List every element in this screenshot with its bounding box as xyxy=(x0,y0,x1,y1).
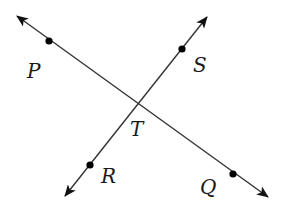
point-p xyxy=(45,37,52,44)
point-r xyxy=(86,161,93,168)
point-s xyxy=(178,45,185,52)
point-q xyxy=(229,170,236,177)
label-p: P xyxy=(26,59,41,83)
label-q: Q xyxy=(200,175,216,199)
line-rs xyxy=(65,17,207,196)
diagram-canvas: P S T R Q xyxy=(0,0,284,208)
label-r: R xyxy=(100,164,116,188)
line-pq xyxy=(17,16,268,197)
label-t: T xyxy=(130,117,145,141)
intersecting-lines-figure: P S T R Q xyxy=(0,0,284,208)
label-s: S xyxy=(193,53,207,77)
